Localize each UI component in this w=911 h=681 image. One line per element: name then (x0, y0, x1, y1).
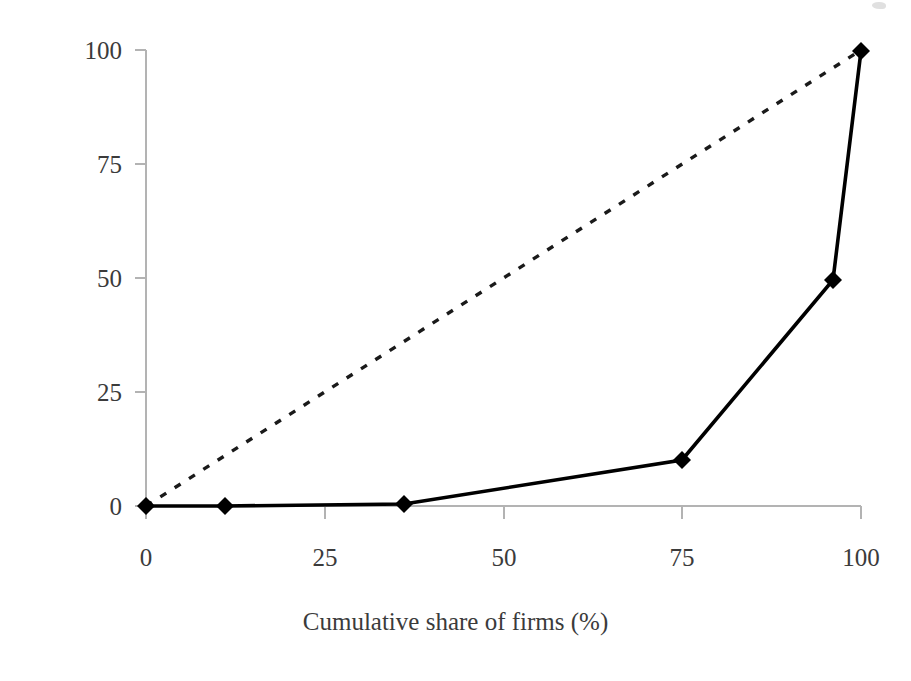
scan-artifact (872, 2, 886, 9)
data-point-marker (395, 495, 413, 513)
y-tick-label-25: 25 (40, 380, 122, 405)
x-tick-label-50: 50 (492, 545, 517, 570)
data-point-marker (216, 497, 234, 515)
y-axis-ticks (135, 50, 146, 506)
x-tick-label-0: 0 (140, 545, 153, 570)
line-of-equality (146, 50, 861, 506)
x-axis-title: Cumulative share of firms (%) (0, 608, 911, 636)
chart-canvas (0, 0, 911, 681)
data-point-marker (852, 42, 870, 60)
y-tick-label-75: 75 (40, 152, 122, 177)
x-axis-ticks (146, 506, 861, 519)
y-tick-label-0: 0 (40, 494, 122, 519)
lorenz-curve-markers (137, 42, 870, 515)
y-tick-label-50: 50 (40, 266, 122, 291)
data-point-marker (137, 497, 155, 515)
x-tick-label-25: 25 (313, 545, 338, 570)
x-tick-label-75: 75 (670, 545, 695, 570)
lorenz-curve-figure: 0 25 50 75 100 0 25 50 75 100 Cumulative… (0, 0, 911, 681)
x-tick-label-100: 100 (842, 545, 880, 570)
y-tick-label-100: 100 (40, 38, 122, 63)
